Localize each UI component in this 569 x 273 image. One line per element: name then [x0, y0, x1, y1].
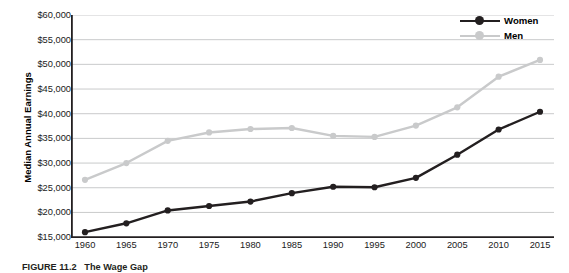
data-point — [165, 207, 171, 213]
legend-swatch-icon — [460, 30, 500, 42]
data-point — [330, 184, 336, 190]
x-tick-label: 2015 — [510, 240, 569, 250]
legend-item-women[interactable]: Women — [460, 13, 565, 28]
data-point — [330, 133, 336, 139]
plot-area — [71, 15, 554, 238]
data-point — [289, 125, 295, 131]
data-point — [537, 109, 543, 115]
data-point — [247, 126, 253, 132]
series-women — [82, 109, 543, 236]
legend-label: Men — [504, 30, 523, 42]
legend-label: Women — [504, 15, 538, 27]
data-point — [206, 129, 212, 135]
legend: WomenMen — [460, 13, 565, 43]
legend-item-men[interactable]: Men — [460, 28, 565, 43]
data-point — [413, 122, 419, 128]
data-point — [413, 175, 419, 181]
legend-swatch-icon — [460, 15, 500, 27]
data-point — [454, 152, 460, 158]
data-point — [82, 229, 88, 235]
data-series-layer — [82, 57, 543, 235]
data-point — [247, 198, 253, 204]
data-point — [537, 57, 543, 63]
data-point — [454, 104, 460, 110]
caption-number: FIGURE 11.2 — [22, 262, 77, 272]
data-point — [371, 184, 377, 190]
data-point — [289, 190, 295, 196]
figure-wage-gap: Median Annual Earnings $15,000$20,000$25… — [0, 0, 569, 273]
series-men — [82, 57, 543, 183]
data-point — [371, 134, 377, 140]
figure-caption: FIGURE 11.2 The Wage Gap — [22, 262, 567, 272]
gridlines — [72, 15, 554, 212]
data-point — [496, 126, 502, 132]
data-point — [206, 203, 212, 209]
data-point — [496, 74, 502, 80]
line-chart-svg — [71, 15, 554, 238]
data-point — [165, 138, 171, 144]
data-point — [82, 177, 88, 183]
data-point — [123, 220, 129, 226]
caption-title: The Wage Gap — [84, 262, 147, 272]
data-point — [123, 160, 129, 166]
